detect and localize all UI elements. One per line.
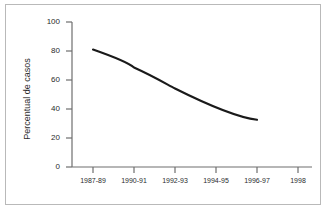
chart-figure: 100 80 60 40 20 0 1987-89 1990-91 1992-9…	[0, 0, 328, 216]
x-tick-label-1998: 1998	[278, 177, 318, 184]
x-tick-label-1990-91: 1990-91	[114, 177, 154, 184]
x-tick-label-1992-93: 1992-93	[155, 177, 195, 184]
x-tick-label-1996-97: 1996-97	[237, 177, 277, 184]
y-tick-label-80: 80	[36, 46, 60, 55]
y-tick-label-40: 40	[36, 104, 60, 113]
y-tick-label-60: 60	[36, 75, 60, 84]
y-tick-label-100: 100	[36, 17, 60, 26]
x-tick-label-1987-89: 1987-89	[73, 177, 113, 184]
y-tick-label-20: 20	[36, 133, 60, 142]
x-axis-ticks	[93, 167, 298, 173]
y-tick-label-0: 0	[36, 162, 60, 171]
y-axis-title: Percentual de casos	[22, 44, 32, 154]
y-axis-ticks	[66, 22, 72, 167]
x-tick-label-1994-95: 1994-95	[196, 177, 236, 184]
data-line-percentual-de-casos	[93, 50, 257, 120]
